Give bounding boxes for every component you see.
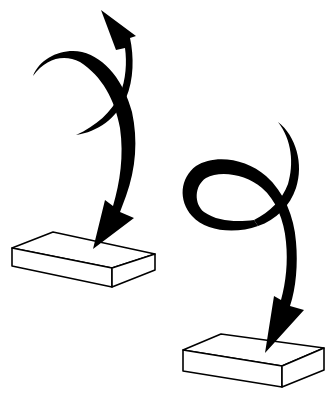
figure-crossed-arrows <box>12 10 155 287</box>
block-2 <box>183 334 324 387</box>
looping-arrow-icon <box>183 122 304 353</box>
arrow-down-icon <box>33 51 135 249</box>
block-1 <box>12 232 155 287</box>
diagram-canvas: Two illustrations of curved black arrows… <box>0 0 336 397</box>
figure-looped-arrow <box>183 122 324 387</box>
